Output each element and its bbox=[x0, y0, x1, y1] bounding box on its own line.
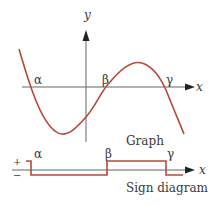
plus-sign: + bbox=[13, 156, 21, 167]
graph-root-gamma: γ bbox=[166, 73, 173, 87]
graph-caption: Graph bbox=[126, 134, 164, 148]
sign-root-gamma: γ bbox=[167, 147, 174, 161]
x-axis-label: x bbox=[196, 80, 203, 94]
sign-root-beta: β bbox=[105, 147, 112, 161]
sign-step-line bbox=[26, 161, 183, 175]
sign-diagram-caption: Sign diagram bbox=[126, 181, 209, 195]
cubic-curve bbox=[19, 49, 184, 134]
sign-root-alpha: α bbox=[34, 147, 42, 161]
x-axis-arrow-icon bbox=[185, 84, 195, 91]
diagram-canvas: x y α β γ Graph + − x α β γ Sign diagram bbox=[0, 0, 217, 206]
graph-root-alpha: α bbox=[34, 73, 42, 87]
minus-sign: − bbox=[13, 170, 21, 181]
sign-axis-label: x bbox=[199, 163, 206, 177]
sign-axis-arrow-icon bbox=[185, 167, 195, 174]
y-axis-arrow-icon bbox=[83, 30, 90, 41]
y-axis-label: y bbox=[83, 8, 91, 22]
graph-root-beta: β bbox=[102, 73, 109, 87]
